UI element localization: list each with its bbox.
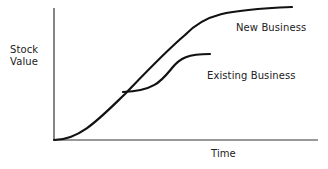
new-business-label: New Business	[236, 22, 306, 34]
existing-business-curve	[123, 54, 210, 92]
y-axis-label: Stock Value	[10, 44, 38, 68]
y-axis-label-line2: Value	[10, 56, 38, 68]
y-axis-label-line1: Stock	[10, 44, 38, 56]
existing-business-label: Existing Business	[207, 70, 296, 82]
x-axis-label: Time	[211, 148, 236, 160]
